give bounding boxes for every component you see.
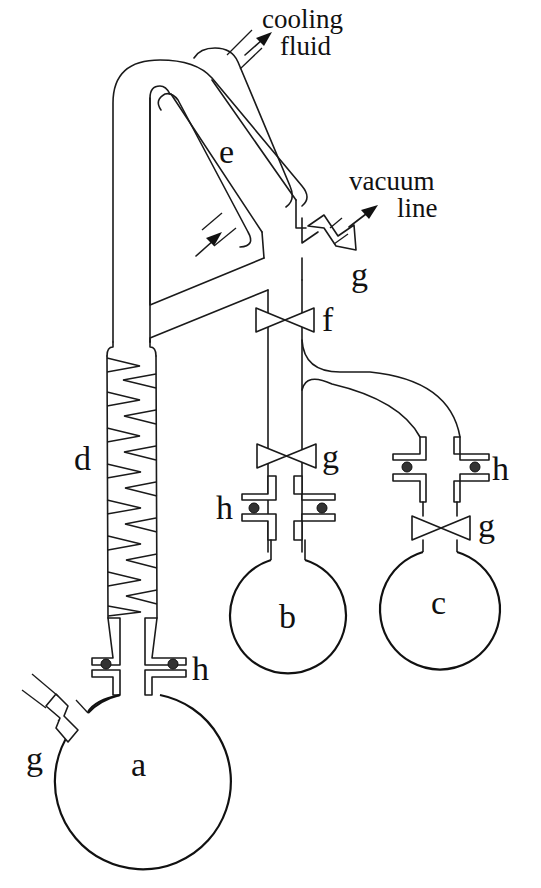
label-g-vacuum: g — [351, 256, 368, 293]
line-to-flask-c — [302, 340, 460, 437]
line-to-flask-b — [256, 280, 314, 552]
label-line: line — [397, 193, 438, 223]
distillation-apparatus-diagram: cooling fluid vacuum line e g f d g h h … — [0, 0, 541, 888]
label-d: d — [74, 440, 91, 477]
o-ring-c-right — [470, 462, 480, 472]
o-ring-b-left — [249, 503, 259, 513]
o-ring-a-right — [168, 659, 178, 669]
label-h-b: h — [216, 489, 233, 526]
label-h-a: h — [192, 650, 209, 687]
label-a: a — [131, 746, 146, 783]
label-g-a: g — [26, 740, 43, 777]
valve-f — [256, 308, 314, 332]
label-f: f — [322, 301, 334, 338]
valve-g-c — [412, 516, 470, 540]
label-g-c: g — [478, 507, 495, 544]
vapor-path-outer — [113, 60, 307, 342]
label-h-c: h — [492, 450, 509, 487]
o-ring-c-left — [402, 462, 412, 472]
o-ring-b-right — [317, 503, 327, 513]
vacuum-line-arrow — [349, 205, 378, 227]
label-c: c — [431, 584, 446, 621]
label-vacuum: vacuum — [349, 166, 434, 196]
vacuum-valve-g — [308, 215, 356, 250]
label-e: e — [219, 133, 234, 170]
label-b: b — [279, 598, 296, 635]
label-cooling: cooling — [262, 4, 343, 34]
label-fluid: fluid — [280, 31, 331, 61]
flask-c-assembly — [380, 437, 500, 670]
flask-b-assembly — [230, 444, 346, 673]
label-g-b: g — [322, 438, 339, 475]
cooling-fluid-in-arrow — [196, 232, 222, 256]
side-valve-g — [46, 694, 78, 742]
o-ring-a-left — [101, 659, 111, 669]
valve-g-b — [257, 444, 316, 468]
column-d — [107, 342, 157, 618]
